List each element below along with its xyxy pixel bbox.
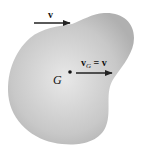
center-of-mass-label: G: [53, 73, 62, 87]
velocity-g-rest: = v: [91, 57, 107, 68]
translation-diagram: v G vG = v: [0, 0, 147, 152]
rigid-body-shape: [8, 13, 134, 145]
center-of-mass-dot: [68, 70, 72, 74]
velocity-vector-top: v: [34, 9, 70, 23]
velocity-label-top: v: [48, 9, 53, 20]
diagram-svg: v G vG = v: [0, 0, 147, 152]
